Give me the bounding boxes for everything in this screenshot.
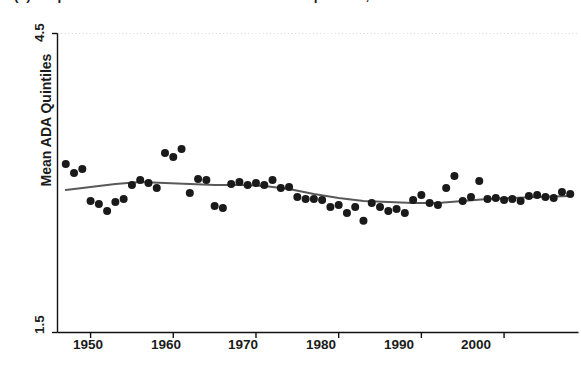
scatter-point (78, 165, 86, 173)
scatter-point (459, 197, 467, 205)
scatter-point (417, 191, 425, 199)
scatter-point (318, 196, 326, 204)
scatter-point (442, 184, 450, 192)
scatter-point (335, 201, 343, 209)
scatter-point (310, 195, 318, 203)
scatter-point (285, 183, 293, 191)
scatter-point (144, 179, 152, 187)
scatter-points (62, 145, 574, 225)
scatter-point (393, 205, 401, 213)
scatter-point (161, 149, 169, 157)
scatter-point (293, 193, 301, 201)
scatter-point (566, 190, 574, 198)
scatter-point (277, 184, 285, 192)
scatter-point (384, 207, 392, 215)
scatter-point (120, 195, 128, 203)
scatter-point (87, 197, 95, 205)
scatter-point (111, 198, 119, 206)
scatter-point (260, 181, 268, 189)
scatter-point (211, 202, 219, 210)
scatter-point (95, 200, 103, 208)
scatter-point (508, 195, 516, 203)
scatter-point (401, 209, 409, 217)
scatter-point (409, 196, 417, 204)
scatter-point (558, 188, 566, 196)
scatter-point (252, 179, 260, 187)
scatter-point (525, 192, 533, 200)
scatter-point (178, 145, 186, 153)
scatter-point (194, 175, 202, 183)
scatter-point (326, 203, 334, 211)
scatter-point (269, 176, 277, 184)
scatter-point (368, 199, 376, 207)
scatter-point (244, 181, 252, 189)
scatter-point (376, 203, 384, 211)
scatter-point (517, 197, 525, 205)
scatter-point (541, 193, 549, 201)
scatter-point (434, 201, 442, 209)
scatter-point (359, 217, 367, 225)
chart-figure: (a) Proportion of House Members' Mean AD… (0, 0, 581, 377)
scatter-point (70, 169, 78, 177)
scatter-point (484, 195, 492, 203)
scatter-point (343, 209, 351, 217)
scatter-point (550, 194, 558, 202)
scatter-point (169, 153, 177, 161)
scatter-point (351, 203, 359, 211)
scatter-point (533, 191, 541, 199)
scatter-point (450, 172, 458, 180)
scatter-point (103, 207, 111, 215)
scatter-point (128, 181, 136, 189)
scatter-point (426, 199, 434, 207)
scatter-point (153, 184, 161, 192)
scatter-point (302, 195, 310, 203)
scatter-point (467, 193, 475, 201)
scatter-point (475, 177, 483, 185)
scatter-point (492, 194, 500, 202)
scatter-point (227, 180, 235, 188)
scatter-point (235, 178, 243, 186)
scatter-point (500, 196, 508, 204)
plot-canvas (0, 0, 581, 377)
scatter-point (186, 189, 194, 197)
scatter-point (219, 204, 227, 212)
scatter-point (62, 160, 70, 168)
scatter-point (136, 176, 144, 184)
scatter-point (202, 176, 210, 184)
